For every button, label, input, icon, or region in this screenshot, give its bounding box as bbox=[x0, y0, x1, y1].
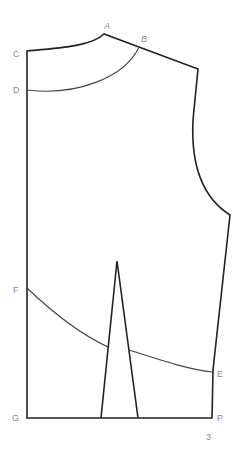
bodice-outline bbox=[27, 34, 230, 418]
label-p: P bbox=[217, 413, 223, 423]
label-b: B bbox=[141, 34, 147, 44]
pattern-diagram: A B C D F E G P 3 bbox=[0, 0, 238, 450]
curve-f-dart bbox=[27, 288, 108, 347]
label-f: F bbox=[13, 285, 19, 295]
page-number: 3 bbox=[206, 432, 211, 442]
label-g: G bbox=[12, 413, 19, 423]
label-e: E bbox=[217, 369, 223, 379]
curve-d-b bbox=[27, 47, 139, 91]
label-c: C bbox=[13, 49, 20, 59]
label-a: A bbox=[103, 21, 110, 31]
label-d: D bbox=[13, 85, 20, 95]
dart bbox=[101, 261, 138, 418]
curve-dart-e bbox=[129, 350, 213, 372]
